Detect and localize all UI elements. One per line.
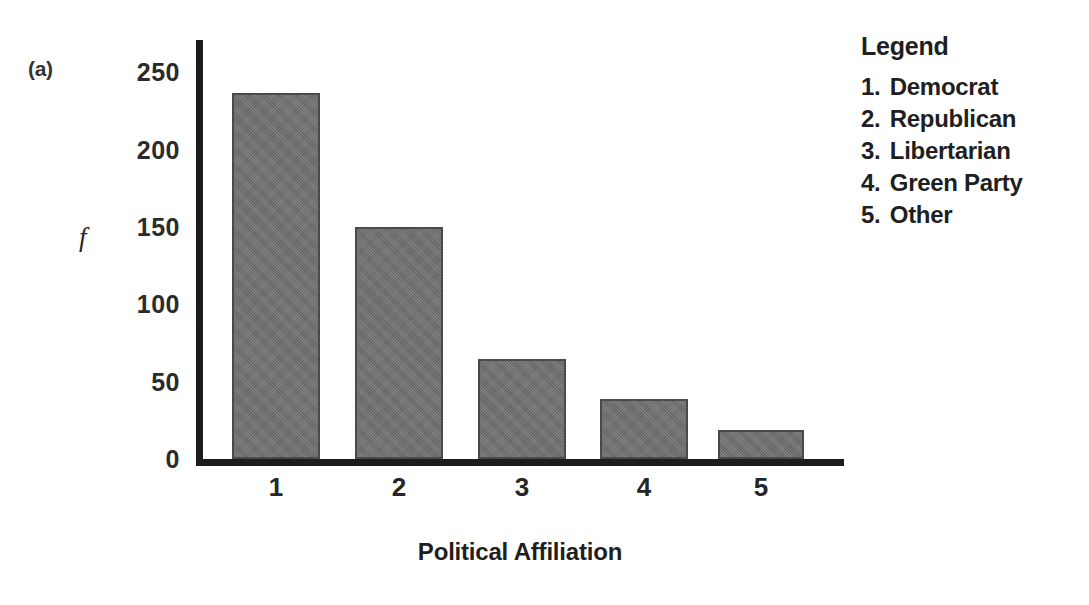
legend-item: 4. Green Party (861, 167, 1083, 199)
legend-item-label: Other (883, 201, 952, 228)
legend-item: 3. Libertarian (861, 135, 1083, 167)
y-axis-line (196, 40, 203, 464)
legend-item: 2. Republican (861, 103, 1083, 135)
y-tick-label: 200 (88, 135, 180, 164)
bar-chart-figure: (a) f 250200150100500 12345 Political Af… (0, 0, 1089, 605)
legend-item-number: 3. (861, 137, 880, 164)
legend-item-label: Republican (883, 105, 1016, 132)
legend-item-number: 1. (861, 73, 880, 100)
bar (232, 93, 320, 459)
legend-item-number: 4. (861, 169, 880, 196)
x-tick-label: 5 (731, 472, 791, 503)
y-tick-label: 150 (88, 213, 180, 242)
y-tick-label: 250 (88, 58, 180, 87)
legend-item-label: Libertarian (883, 137, 1010, 164)
x-tick-label: 4 (614, 472, 674, 503)
panel-label: (a) (28, 57, 53, 81)
x-axis-title: Political Affiliation (196, 538, 844, 566)
legend-item: 5. Other (861, 199, 1083, 231)
legend-item-label: Green Party (883, 169, 1022, 196)
legend-item: 1. Democrat (861, 71, 1083, 103)
legend-items: 1. Democrat2. Republican3. Libertarian4.… (861, 71, 1083, 231)
bar (600, 399, 688, 459)
legend-item-number: 2. (861, 105, 880, 132)
plot-area: 250200150100500 12345 (196, 40, 844, 466)
y-axis-label: f (79, 222, 87, 253)
legend-item-number: 5. (861, 201, 880, 228)
x-tick-label: 3 (492, 472, 552, 503)
y-tick-label: 0 (88, 445, 180, 474)
legend-title: Legend (861, 33, 1083, 59)
y-tick-label: 50 (88, 367, 180, 396)
legend-item-label: Democrat (883, 73, 998, 100)
x-tick-label: 2 (369, 472, 429, 503)
bar (355, 227, 443, 459)
bar (718, 430, 804, 459)
legend: Legend 1. Democrat2. Republican3. Libert… (861, 33, 1083, 231)
x-tick-label: 1 (246, 472, 306, 503)
x-axis-line (196, 459, 844, 466)
bar (478, 359, 566, 459)
y-tick-label: 100 (88, 290, 180, 319)
